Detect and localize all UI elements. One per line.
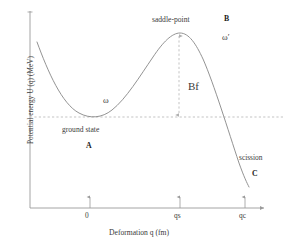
annotation-omega: ω (103, 96, 109, 105)
potential-energy-fission-barrier-figure: Potential energy U (q) (MeV) Deformation… (0, 0, 286, 249)
x-tick-label-origin: 0 (85, 212, 89, 219)
annotation-barrier-height-bf: Bf (188, 81, 199, 92)
annotation-point-a: A (86, 142, 92, 150)
x-axis-label: Deformation q (fm) (74, 228, 204, 237)
y-axis-label: Potential energy U (q) (MeV) (27, 25, 35, 175)
annotation-point-b: B (224, 15, 229, 23)
potential-energy-curve (37, 33, 249, 187)
annotation-saddle-point: saddle-point (152, 16, 190, 24)
annotation-scission: scission (239, 154, 262, 161)
annotation-point-c: C (252, 170, 258, 178)
x-tick-label-qc: qc (239, 212, 246, 219)
annotation-omega-prime: ω′ (222, 33, 230, 42)
annotation-ground-state: ground state (62, 126, 99, 134)
x-tick-label-qs: qs (174, 212, 181, 219)
